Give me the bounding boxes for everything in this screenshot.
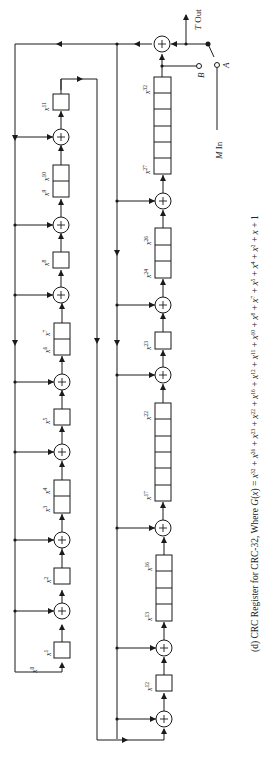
- right-register-chain: [115, 54, 197, 727]
- label-x1: x1: [43, 649, 53, 657]
- io-labels: T Out B A M In: [193, 9, 231, 160]
- label-x0: x0: [29, 666, 39, 674]
- t-out-label: T Out: [193, 9, 203, 30]
- left-chain-labels: x0 x1 x2 x3 x4 x5 x6 x7 x8 x9 x10 x11: [29, 102, 53, 674]
- label-x11: x11: [41, 102, 51, 112]
- label-x17: x17: [143, 491, 153, 501]
- feedback-bus: [12, 41, 167, 743]
- figure-caption: (d) CRC Register for CRC-32, Where G(x) …: [250, 215, 261, 652]
- label-x6: x6: [42, 346, 52, 354]
- b-label: B: [196, 72, 206, 78]
- label-x13: x13: [144, 612, 154, 622]
- label-x12: x12: [144, 682, 154, 692]
- label-x23: x23: [143, 341, 153, 351]
- label-x4: x4: [42, 487, 52, 495]
- crc32-register-diagram: T Out B A M In x0 x1 x2 x3 x4 x5 x6 x7 x…: [0, 0, 277, 759]
- label-x10: x10: [41, 172, 51, 182]
- label-x7: x7: [42, 329, 52, 337]
- label-x5: x5: [42, 417, 52, 425]
- a-label: A: [221, 62, 231, 69]
- right-chain-labels: x12 x13 x16 x17 x22 x23 x24 x26 x27 x32: [142, 85, 154, 692]
- caption-text: (d) CRC Register for CRC-32, Where G(x) …: [250, 215, 261, 652]
- label-x27: x27: [142, 165, 152, 175]
- label-x2: x2: [43, 576, 53, 584]
- label-x3: x3: [42, 505, 52, 513]
- label-x22: x22: [143, 411, 153, 421]
- label-x32: x32: [142, 85, 152, 95]
- label-x9: x9: [41, 189, 51, 197]
- m-in-label: M In: [214, 141, 224, 160]
- left-register-chain: [13, 79, 70, 658]
- label-x16: x16: [144, 562, 154, 572]
- label-x24: x24: [143, 269, 153, 279]
- label-x26: x26: [143, 236, 153, 246]
- label-x8: x8: [41, 259, 51, 267]
